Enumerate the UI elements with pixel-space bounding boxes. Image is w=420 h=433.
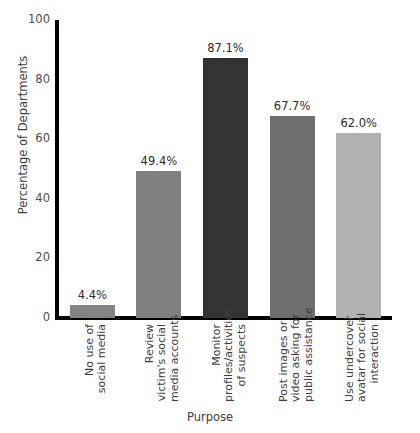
bar: 49.4%: [136, 171, 181, 318]
y-tick-label: 40: [35, 191, 50, 205]
y-tick-label: 80: [35, 72, 50, 86]
bar-value-label: 67.7%: [274, 99, 311, 113]
plot-area: 4.4%49.4%87.1%67.7%62.0%: [59, 20, 392, 318]
bar: 4.4%: [70, 305, 115, 318]
y-axis-title: Percentage of Departments: [16, 20, 30, 250]
x-category-label: Post images or video asking for public a…: [278, 324, 315, 402]
x-axis-title: Purpose: [0, 410, 420, 424]
y-tick-label: 0: [43, 310, 50, 324]
bar-value-label: 62.0%: [340, 116, 377, 130]
bar: 87.1%: [203, 58, 248, 318]
x-category-label: Review victim's social media accounts: [144, 324, 181, 402]
bar-value-label: 4.4%: [78, 288, 107, 302]
y-tick-label: 100: [28, 12, 50, 26]
bar-value-label: 49.4%: [141, 154, 178, 168]
bar-chart: 020406080100 Percentage of Departments 4…: [0, 0, 420, 433]
bar-value-label: 87.1%: [207, 41, 244, 55]
bar: 62.0%: [336, 133, 381, 318]
x-category-label: No use of social media: [84, 324, 109, 402]
y-tick-label: 20: [35, 250, 50, 264]
x-category-label: Use undercover avatar for social interac…: [344, 324, 381, 402]
bar: 67.7%: [270, 116, 315, 318]
x-category-label: Monitor profiles/activities of suspects: [211, 324, 248, 402]
y-tick-label: 60: [35, 131, 50, 145]
